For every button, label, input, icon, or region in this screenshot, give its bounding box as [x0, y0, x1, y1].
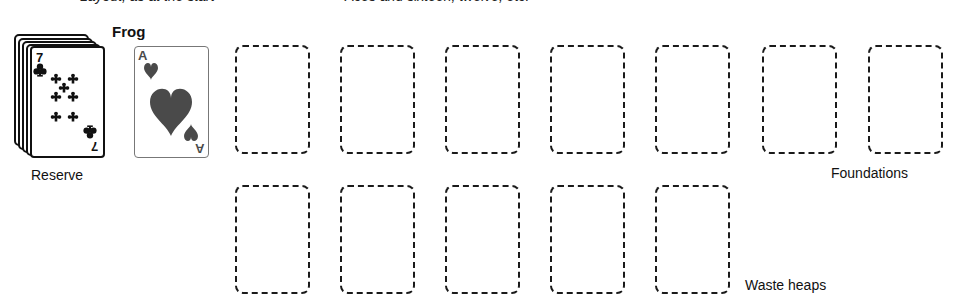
waste-heap-slot[interactable] — [340, 185, 415, 294]
frog-label: Frog — [112, 23, 145, 40]
reserve-label: Reserve — [31, 167, 83, 183]
reserve-top-card[interactable]: 7 — [30, 46, 105, 158]
foundations-label: Foundations — [831, 165, 908, 181]
waste-heap-slot[interactable] — [445, 185, 520, 294]
foundation-slot[interactable] — [762, 45, 837, 154]
foundation-slot[interactable] — [445, 45, 520, 154]
foundation-slot[interactable] — [655, 45, 730, 154]
waste-heap-slot[interactable] — [655, 185, 730, 294]
waste-heap-slot[interactable] — [235, 185, 310, 294]
caption-fragment-right: Aces and sixteen, twelve, etc. — [345, 0, 529, 4]
foundation-slot[interactable] — [340, 45, 415, 154]
foundation-slot[interactable] — [550, 45, 625, 154]
card-rank-inverted: 7 — [91, 140, 98, 153]
foundation-slot[interactable] — [868, 45, 943, 154]
frog-card[interactable]: A A — [134, 46, 209, 158]
card-rank-inverted: A — [195, 142, 204, 155]
waste-heap-slot[interactable] — [550, 185, 625, 294]
foundation-slot[interactable] — [235, 45, 310, 154]
waste-heaps-label: Waste heaps — [745, 277, 826, 293]
caption-fragment-left: Layout, as at the start — [80, 0, 215, 4]
